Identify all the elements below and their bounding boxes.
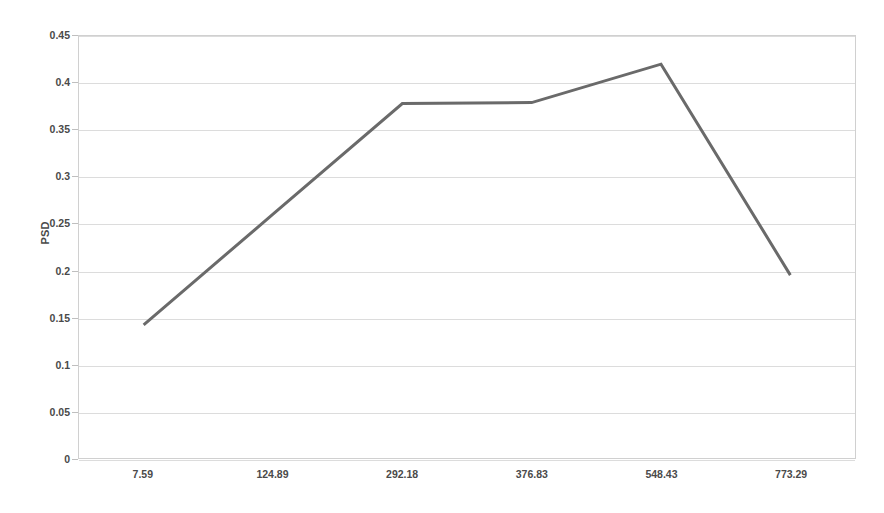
- x-tick-label: 548.43: [602, 468, 722, 480]
- y-tick-label: 0.35: [34, 123, 70, 135]
- y-tick-mark: [72, 129, 78, 130]
- series-line-psd: [144, 64, 791, 325]
- x-tick-label: 376.83: [472, 468, 592, 480]
- y-tick-label: 0.45: [34, 29, 70, 41]
- x-axis-tick-labels: 7.59124.89292.18376.83548.43773.29: [78, 468, 856, 492]
- y-tick-mark: [72, 176, 78, 177]
- y-tick-label: 0.4: [34, 76, 70, 88]
- y-tick-label: 0.15: [34, 312, 70, 324]
- data-line-layer: [79, 36, 855, 458]
- y-tick-mark: [72, 223, 78, 224]
- y-tick-label: 0.2: [34, 265, 70, 277]
- y-tick-label: 0.05: [34, 406, 70, 418]
- y-tick-label: 0.25: [34, 217, 70, 229]
- plot-area: [78, 35, 856, 459]
- y-tick-label: 0.1: [34, 359, 70, 371]
- y-tick-mark: [72, 412, 78, 413]
- y-tick-mark: [72, 459, 78, 460]
- x-tick-label: 292.18: [342, 468, 462, 480]
- y-axis-tick-labels: 00.050.10.150.20.250.30.350.40.45: [34, 35, 70, 459]
- gridline: [79, 460, 855, 461]
- y-tick-mark: [72, 271, 78, 272]
- x-tick-label: 124.89: [213, 468, 333, 480]
- y-tick-mark: [72, 365, 78, 366]
- psd-line-chart: PSD 00.050.10.150.20.250.30.350.40.45 7.…: [0, 0, 884, 513]
- y-tick-mark: [72, 35, 78, 36]
- y-tick-mark: [72, 318, 78, 319]
- y-tick-label: 0: [34, 453, 70, 465]
- x-tick-label: 773.29: [731, 468, 851, 480]
- y-tick-label: 0.3: [34, 170, 70, 182]
- x-tick-label: 7.59: [83, 468, 203, 480]
- y-tick-mark: [72, 82, 78, 83]
